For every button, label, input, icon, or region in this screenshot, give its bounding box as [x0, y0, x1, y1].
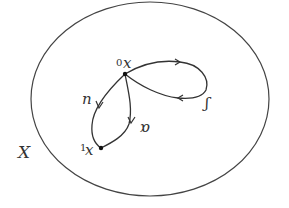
space-label: X: [16, 142, 31, 162]
point-x1: [99, 146, 103, 150]
path-right-label: ɑ: [140, 120, 150, 138]
loop-curve: [125, 61, 207, 98]
point-x0-prefix: 0: [116, 57, 122, 68]
point-x0-label: x: [123, 54, 132, 72]
space-ellipse: [31, 2, 269, 196]
path-right-curve: [101, 74, 130, 148]
point-x0: [123, 72, 127, 76]
path-left-label: n: [82, 90, 92, 108]
homotopy-diagram: 0 x 1 x n ɑ ʃ X: [0, 0, 289, 208]
point-x1-label: x: [85, 141, 94, 159]
loop-label: ʃ: [202, 94, 212, 112]
